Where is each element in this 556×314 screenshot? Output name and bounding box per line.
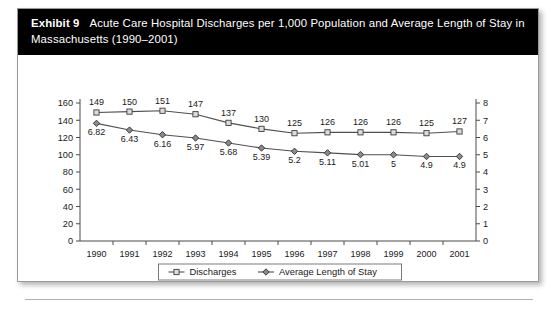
data-point-label: 6.16 xyxy=(154,139,172,149)
bottom-divider xyxy=(25,299,533,300)
data-point-label: 5.2 xyxy=(288,155,301,165)
data-point-marker xyxy=(93,120,99,126)
x-axis-tick-label: 1999 xyxy=(383,249,403,259)
left-axis-tick-label: 80 xyxy=(63,167,73,177)
data-point-marker xyxy=(159,132,165,138)
x-axis-tick-label: 2000 xyxy=(416,249,436,259)
legend-label: Average Length of Stay xyxy=(279,266,377,277)
data-point-label: 126 xyxy=(353,117,368,127)
x-axis-tick-label: 1997 xyxy=(317,249,337,259)
chart-area: 020406080100120140160 012345678 19901991… xyxy=(18,55,538,281)
left-axis-tick-label: 20 xyxy=(63,219,73,229)
line-chart: 020406080100120140160 012345678 19901991… xyxy=(18,55,538,281)
data-point-label: 4.9 xyxy=(453,160,466,170)
right-axis-tick-label: 7 xyxy=(483,116,488,126)
left-axis-tick-label: 0 xyxy=(68,236,73,246)
data-point-label: 6.82 xyxy=(88,127,106,137)
screenshot-root: Exhibit 9Acute Care Hospital Discharges … xyxy=(0,0,556,314)
data-point-label: 127 xyxy=(452,116,467,126)
exhibit-title-line: Exhibit 9Acute Care Hospital Discharges … xyxy=(31,16,526,47)
right-axis-tick-label: 5 xyxy=(483,150,488,160)
data-point-marker xyxy=(192,135,198,141)
data-point-marker xyxy=(226,120,231,125)
x-axis-tick-label: 1993 xyxy=(185,249,205,259)
left-axis-tick-label: 120 xyxy=(58,133,73,143)
data-point-label: 130 xyxy=(254,114,269,124)
left-axis-tick-label: 160 xyxy=(58,98,73,108)
series-group xyxy=(93,108,462,160)
exhibit-number-label: Exhibit 9 xyxy=(31,17,80,29)
series-line-discharges xyxy=(97,111,460,133)
right-axis-tick-label: 6 xyxy=(483,133,488,143)
x-axis: 1990199119921993199419951996199719981999… xyxy=(80,241,476,259)
left-axis-tick-label: 100 xyxy=(58,150,73,160)
data-point-label: 126 xyxy=(386,117,401,127)
data-point-label: 5.01 xyxy=(352,159,370,169)
data-point-marker xyxy=(423,153,429,159)
x-axis-tick-label: 1994 xyxy=(218,249,238,259)
right-axis-tick-label: 0 xyxy=(483,236,488,246)
data-point-marker xyxy=(325,130,330,135)
data-point-marker xyxy=(126,127,132,133)
data-point-label: 137 xyxy=(221,108,236,118)
data-point-marker xyxy=(94,110,99,115)
x-axis-tick-label: 1996 xyxy=(284,249,304,259)
data-point-label: 5.97 xyxy=(187,142,205,152)
x-axis-tick-label: 1992 xyxy=(152,249,172,259)
legend-label: Discharges xyxy=(190,266,237,277)
data-point-label: 4.9 xyxy=(420,160,433,170)
data-point-label: 126 xyxy=(320,117,335,127)
data-point-label: 151 xyxy=(155,96,170,106)
x-axis-tick-label: 1995 xyxy=(251,249,271,259)
exhibit-title-bar: Exhibit 9Acute Care Hospital Discharges … xyxy=(18,9,538,55)
data-point-label: 149 xyxy=(89,97,104,107)
data-point-marker xyxy=(456,153,462,159)
data-point-marker xyxy=(127,109,132,114)
data-point-label: 5 xyxy=(391,159,396,169)
data-point-label: 147 xyxy=(188,99,203,109)
data-point-marker xyxy=(390,152,396,158)
right-axis: 012345678 xyxy=(476,98,488,246)
exhibit-title-text: Acute Care Hospital Discharges per 1,000… xyxy=(31,17,525,45)
exhibit-card: Exhibit 9Acute Care Hospital Discharges … xyxy=(17,8,539,282)
data-point-label: 5.11 xyxy=(319,157,336,167)
data-point-marker xyxy=(291,148,297,154)
chart-legend: DischargesAverage Length of Stay xyxy=(159,264,402,280)
data-point-label: 5.39 xyxy=(253,152,271,162)
data-point-marker xyxy=(259,126,264,131)
data-point-marker xyxy=(424,131,429,136)
right-axis-tick-label: 4 xyxy=(483,167,488,177)
data-point-marker xyxy=(258,145,264,151)
right-axis-tick-label: 8 xyxy=(483,98,488,108)
data-point-marker xyxy=(292,131,297,136)
right-axis-tick-label: 3 xyxy=(483,185,488,195)
data-point-marker xyxy=(457,129,462,134)
data-point-label: 5.68 xyxy=(220,147,238,157)
left-axis-tick-label: 60 xyxy=(63,185,73,195)
data-point-marker xyxy=(225,140,231,146)
data-point-marker xyxy=(160,108,165,113)
left-axis-tick-label: 40 xyxy=(63,202,73,212)
data-point-marker xyxy=(358,130,363,135)
data-point-marker xyxy=(324,150,330,156)
left-axis-tick-label: 140 xyxy=(58,116,73,126)
x-axis-tick-label: 1998 xyxy=(350,249,370,259)
data-point-label: 125 xyxy=(419,118,434,128)
left-axis: 020406080100120140160 xyxy=(58,98,80,246)
right-axis-tick-label: 1 xyxy=(483,219,488,229)
x-axis-tick-label: 2001 xyxy=(449,249,469,259)
data-point-label: 150 xyxy=(122,97,137,107)
series-line-average-length-of-stay xyxy=(97,123,460,156)
x-axis-tick-label: 1991 xyxy=(119,249,139,259)
data-point-marker xyxy=(357,151,363,157)
data-point-marker xyxy=(391,130,396,135)
data-point-label: 6.43 xyxy=(121,134,139,144)
right-axis-tick-label: 2 xyxy=(483,202,488,212)
legend-marker xyxy=(174,269,179,274)
x-axis-tick-label: 1990 xyxy=(86,249,106,259)
data-point-label: 125 xyxy=(287,118,302,128)
data-point-marker xyxy=(193,112,198,117)
